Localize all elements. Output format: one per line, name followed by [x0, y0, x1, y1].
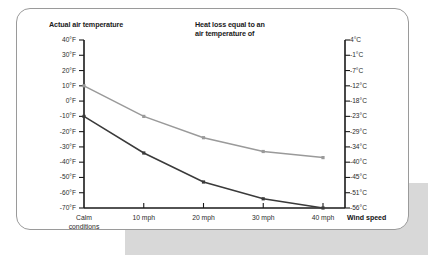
x-axis-tick-label: 10 mph — [114, 213, 174, 222]
x-axis-tick-label: Calmconditions — [54, 213, 114, 231]
x-axis-tick-label: 40 mph — [293, 213, 353, 222]
x-axis-title: Wind speed — [347, 214, 386, 221]
x-axis-tick-label: 20 mph — [174, 213, 234, 222]
x-axis-tick-label: 30 mph — [233, 213, 293, 222]
